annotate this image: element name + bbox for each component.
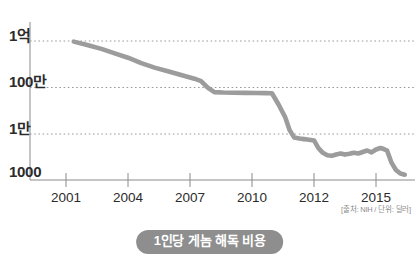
xtick-label-3: 2010 xyxy=(222,190,282,205)
ytick-label-2: 1만 xyxy=(9,117,31,138)
chart-caption: 1인당 게놈 해독 비용 xyxy=(136,230,284,254)
ytick-label-0: 1억 xyxy=(9,24,31,45)
source-note: [출처: NIH / 단위: 달러] xyxy=(341,203,411,214)
chart-container: 1억 100만 1만 1000 2001 2004 2007 2010 2012… xyxy=(0,0,419,258)
gridlines xyxy=(30,41,415,134)
xtick-label-0: 2001 xyxy=(36,190,96,205)
ytick-label-1: 100만 xyxy=(9,70,47,91)
data-line-genome-cost xyxy=(74,42,405,175)
xtick-label-1: 2004 xyxy=(98,190,158,205)
xtick-label-2: 2007 xyxy=(160,190,220,205)
xtick-label-4: 2012 xyxy=(284,190,344,205)
genome-cost-line-chart xyxy=(0,0,419,258)
ytick-label-3: 1000 xyxy=(9,163,41,180)
